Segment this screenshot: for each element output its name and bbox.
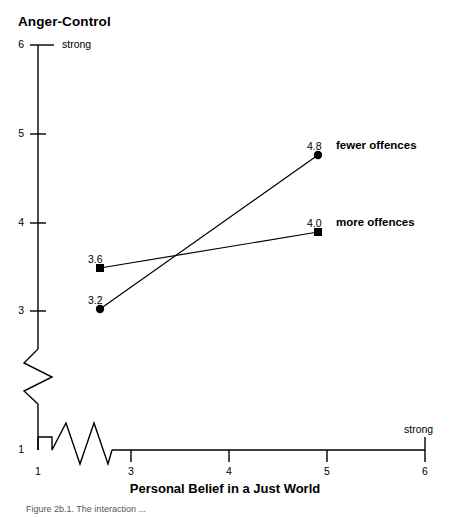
value-label-more-offences-left: 3.6 <box>88 253 103 265</box>
value-label-fewer-offences-right: 4.8 <box>307 140 322 152</box>
marker-more-offences-right <box>314 228 322 236</box>
marker-more-offences-left <box>96 264 104 272</box>
series-label-fewer-offences: fewer offences <box>336 139 417 151</box>
y-axis-anchor-strong: strong <box>62 38 91 50</box>
y-tick-label-4: 4 <box>6 216 24 228</box>
x-tick-label-3: 3 <box>121 465 141 477</box>
chart-figure: Anger-Control 6 5 4 3 1 stro <box>0 0 450 517</box>
x-axis-title: Personal Belief in a Just World <box>0 481 450 496</box>
series-label-more-offences: more offences <box>336 216 415 228</box>
x-tick-label-6: 6 <box>415 465 435 477</box>
plot-area <box>0 0 450 517</box>
series-line-more-offences <box>100 232 318 268</box>
x-tick-label-1: 1 <box>28 465 48 477</box>
y-tick-label-3: 3 <box>6 304 24 316</box>
x-tick-label-5: 5 <box>317 465 337 477</box>
y-axis-break-zigzag <box>24 349 52 404</box>
marker-fewer-offences-right <box>314 151 322 159</box>
x-tick-label-4: 4 <box>219 465 239 477</box>
x-axis-break-zigzag <box>38 423 112 464</box>
series-line-fewer-offences <box>100 155 318 309</box>
marker-fewer-offences-left <box>96 305 104 313</box>
y-tick-label-1: 1 <box>6 443 24 455</box>
value-label-fewer-offences-left: 3.2 <box>88 294 103 306</box>
x-axis-anchor-strong: strong <box>404 423 433 435</box>
y-tick-label-6: 6 <box>6 38 24 50</box>
figure-caption: Figure 2b.1. The interaction ... <box>26 504 438 515</box>
value-label-more-offences-right: 4.0 <box>307 217 322 229</box>
y-tick-label-5: 5 <box>6 127 24 139</box>
